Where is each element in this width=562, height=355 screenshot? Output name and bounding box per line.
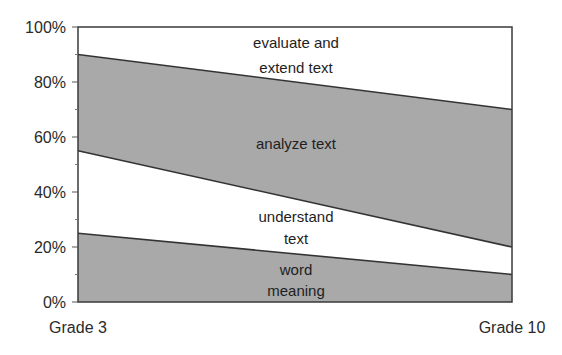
x-tick-label-grade-10: Grade 10 [479,319,546,336]
y-tick-label: 0% [43,294,66,311]
x-tick-label-grade-3: Grade 3 [49,319,107,336]
stacked-area-chart: 0%20%40%60%80%100% Grade 3 Grade 10 eval… [0,0,562,355]
y-axis: 0%20%40%60%80%100% [25,19,78,311]
label-analyze: analyze text [256,135,337,152]
label-evaluate-line-1: evaluate and [253,34,339,51]
label-word-line-2: meaning [267,282,325,299]
label-word-line-1: word [279,261,313,278]
y-tick-label: 60% [34,129,66,146]
label-evaluate-line-2: extend text [259,59,333,76]
x-axis: Grade 3 Grade 10 [49,319,545,336]
y-tick-label: 80% [34,74,66,91]
y-tick-label: 100% [25,19,66,36]
label-understand-line-1: understand [258,208,333,225]
y-tick-label: 40% [34,184,66,201]
y-tick-label: 20% [34,239,66,256]
label-understand-line-2: text [284,230,309,247]
